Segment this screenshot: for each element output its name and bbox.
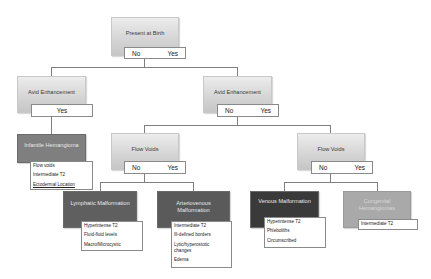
connector-left-avid-down — [51, 117, 52, 134]
feature-item: Hyperintense T2 — [267, 219, 323, 225]
connector-to-flow-left — [144, 125, 145, 133]
node-infantile-hemangioma: Infantile Hemangioma — [17, 134, 86, 163]
connector-to-left-avid — [51, 67, 52, 76]
feature-item: Circumscribed — [267, 238, 323, 244]
feature-item: Flow voids — [33, 163, 90, 169]
option-yes: Yes — [167, 162, 178, 173]
connector-to-lymphatic — [100, 182, 101, 191]
feature-item: Ectodermal Location — [33, 182, 90, 188]
option-yes: Yes — [167, 48, 178, 58]
features-lymphatic-malformation: Hyperintense T2 Fluid-fluid levels Macro… — [81, 221, 143, 251]
node-label: Arteriovenous Malformation — [158, 200, 229, 214]
connector-to-avm — [193, 182, 194, 191]
decision-options-flow-right: No Yes — [311, 161, 373, 174]
option-no: No — [319, 162, 327, 173]
node-label: Present at Birth — [123, 30, 168, 37]
connector-flow-left-horizontal — [100, 182, 193, 183]
connector-flow-right-down — [330, 174, 331, 182]
connector-right-avid-down — [237, 117, 238, 125]
option-yes: Yes — [57, 105, 68, 116]
connector-to-venous — [284, 182, 285, 191]
connector-flow-left-down — [144, 174, 145, 182]
connector-root-horizontal — [51, 67, 238, 68]
features-infantile-hemangioma: Flow voids Intermediate T2 Ectodermal Lo… — [30, 161, 93, 190]
node-label: Venous Malformation — [255, 198, 314, 205]
node-label: Lymphatic Malformation — [67, 200, 132, 207]
option-no: No — [225, 105, 233, 116]
features-arteriovenous-malformation: Intermediate T2 Ill-defined borders Lyti… — [171, 221, 232, 268]
feature-item: Intermediate T2 — [174, 223, 229, 229]
node-label: Infantile Hemangioma — [21, 142, 81, 149]
feature-item: Macro/Microcystic — [84, 242, 140, 248]
option-no: No — [132, 162, 140, 173]
features-congenital-hemangiomas: Intermediate T2 — [358, 219, 418, 230]
feature-item: Intermediate T2 — [33, 172, 90, 178]
feature-item: Fluid-fluid levels — [84, 232, 140, 238]
decision-options-left-avid: Yes — [31, 104, 93, 117]
connector-root-down — [144, 59, 145, 67]
connector-to-congenital — [377, 182, 378, 191]
connector-to-right-avid — [237, 67, 238, 76]
connector-right-avid-horizontal — [144, 125, 331, 126]
option-yes: Yes — [354, 162, 365, 173]
features-venous-malformation: Hyperintense T2 Phleboliths Circumscribe… — [264, 217, 326, 248]
node-label: Avid Enhancement — [211, 89, 264, 96]
option-no: No — [132, 48, 140, 58]
feature-item: Edema — [174, 257, 229, 263]
option-yes: Yes — [260, 105, 271, 116]
decision-options-right-avid: No Yes — [217, 104, 279, 117]
connector-to-flow-right — [330, 125, 331, 133]
node-label: Flow Voids — [314, 146, 347, 153]
connector-flow-right-horizontal — [284, 182, 378, 183]
decision-options-root: No Yes — [124, 47, 186, 59]
feature-item: Hyperintense T2 — [84, 223, 140, 229]
node-label: Flow Voids — [128, 146, 161, 153]
decision-options-flow-left: No Yes — [124, 161, 186, 174]
node-label: Avid Enhancement — [25, 89, 78, 96]
feature-item: Intermediate T2 — [361, 221, 415, 227]
node-label: Congenital Hemangiomas — [344, 198, 410, 212]
feature-item: Phleboliths — [267, 228, 323, 234]
feature-item: Lytic/hyperostotic changes — [174, 242, 224, 254]
feature-item: Ill-defined borders — [174, 232, 229, 238]
